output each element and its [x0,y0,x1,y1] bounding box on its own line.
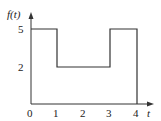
x-tick-2: 2 [80,107,86,119]
y-axis-label: f(t) [7,8,21,21]
x-tick-1: 1 [53,107,59,119]
y-tick-5: 5 [18,23,24,35]
x-axis-arrow-icon [147,102,154,107]
x-axis-label: t [147,107,151,119]
x-tick-3: 3 [106,107,112,119]
x-tick-4: 4 [133,107,139,119]
waveform-line [31,29,137,104]
y-tick-2: 2 [18,61,24,73]
y-axis-arrow-icon [29,12,34,19]
chart: f(t) t 5 2 0 1 2 3 4 [0,0,161,121]
x-tick-0: 0 [27,107,33,119]
